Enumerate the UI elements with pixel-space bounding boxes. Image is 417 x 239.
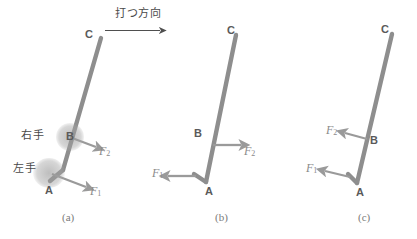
panel-b-f2-subscript: 2 [251, 149, 255, 158]
panel-c-point-c-label: C [381, 24, 389, 35]
panel-c-rod-icon [348, 34, 392, 183]
panel-b-f1-subscript: 1 [159, 171, 163, 180]
direction-note-label: 打つ方向 [115, 8, 161, 19]
panel-a-left-hand-label: 左手 [13, 163, 36, 174]
panel-a-point-c-label: C [85, 29, 93, 40]
panel-c-force-f1-label: F1 [306, 162, 317, 175]
panel-b-point-b-label: B [194, 128, 202, 139]
panel-a-force-f2-label: F2 [99, 145, 110, 158]
panel-b-point-c-label: C [227, 25, 235, 36]
panel-a-force-f1-label: F1 [90, 185, 101, 198]
diagram-vector-layer [0, 0, 417, 239]
panel-a-f1-subscript: 1 [97, 189, 101, 198]
panel-a-f2-subscript: 2 [106, 149, 110, 158]
panel-c-point-a-label: A [356, 187, 364, 198]
panel-c-f2-subscript: 2 [333, 128, 337, 137]
panel-c-force-f2-label: F2 [326, 124, 337, 137]
panel-a-point-a-label: A [45, 185, 53, 196]
panel-b-force-f1-label: F1 [152, 167, 163, 180]
panel-b-force-f2-label: F2 [244, 145, 255, 158]
panel-b-point-a-label: A [205, 186, 213, 197]
panel-b-rod-icon [194, 35, 236, 182]
panel-a-right-hand-label: 右手 [21, 130, 44, 141]
panel-c-f1-subscript: 1 [313, 166, 317, 175]
panel-a-caption: (a) [62, 212, 74, 223]
panel-c-point-b-label: B [370, 135, 378, 146]
panel-a-point-b-label: B [66, 131, 74, 142]
physics-force-diagram: 打つ方向 C B A 右手 左手 F2 F1 (a) C B A F2 F1 (… [0, 0, 417, 239]
panel-b-caption: (b) [215, 212, 228, 223]
panel-c-caption: (c) [358, 212, 370, 223]
panel-c-force-f2-arrow-icon [345, 133, 367, 139]
